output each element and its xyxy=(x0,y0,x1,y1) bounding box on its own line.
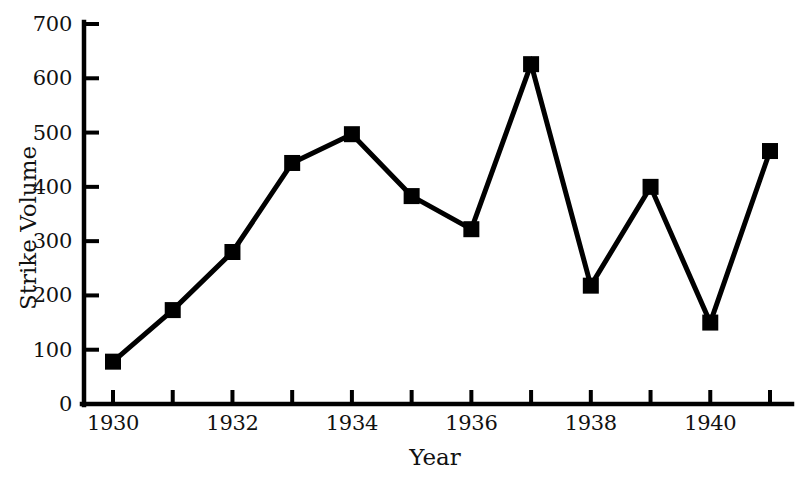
data-point-marker xyxy=(643,179,659,195)
data-point-marker xyxy=(404,188,420,204)
y-axis-tick-label: 600 xyxy=(0,66,72,90)
data-point-marker xyxy=(224,244,240,260)
x-axis-tick-label: 1938 xyxy=(546,411,636,435)
data-line xyxy=(113,64,770,361)
y-axis-tick-label: 0 xyxy=(0,392,72,416)
data-point-marker xyxy=(762,143,778,159)
x-axis-tick-label: 1934 xyxy=(307,411,397,435)
x-axis-tick-label: 1936 xyxy=(426,411,516,435)
y-axis-tick-label: 700 xyxy=(0,12,72,36)
data-point-marker xyxy=(702,315,718,331)
y-axis-title: Strike Volume xyxy=(15,128,41,328)
x-axis-tick-label: 1932 xyxy=(187,411,277,435)
data-point-marker xyxy=(284,155,300,171)
data-point-marker xyxy=(523,56,539,72)
data-point-marker xyxy=(105,354,121,370)
axis-lines xyxy=(82,22,792,405)
plot-area xyxy=(0,0,809,478)
y-axis-tick-label: 100 xyxy=(0,338,72,362)
x-axis-title: Year xyxy=(335,444,535,470)
data-point-marker xyxy=(463,221,479,237)
data-point-marker xyxy=(344,126,360,142)
x-axis-tick-label: 1940 xyxy=(665,411,755,435)
data-point-marker xyxy=(165,302,181,318)
line-chart: 0100200300400500600700 19301932193419361… xyxy=(0,0,809,478)
data-point-marker xyxy=(583,278,599,294)
x-axis-tick-label: 1930 xyxy=(68,411,158,435)
